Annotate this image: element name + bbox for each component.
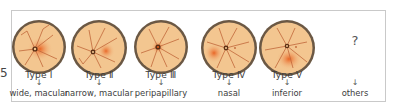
down-arrow-icon: ↓ xyxy=(255,78,319,88)
type-3-item: Type Ⅲ ↓ peripapillary xyxy=(129,11,193,103)
down-arrow-icon: ↓ xyxy=(129,78,193,88)
type-description: peripapillary xyxy=(123,88,199,98)
question-mark-icon: ? xyxy=(323,33,387,48)
others-item: ? ↓ others xyxy=(323,11,387,103)
fundus-type-2-icon xyxy=(70,19,128,77)
down-arrow-icon: ↓ xyxy=(67,78,131,88)
fundus-type-3-icon xyxy=(133,19,189,75)
down-arrow-icon: ↓ xyxy=(7,78,71,88)
fundus-classification-panel: Type Ⅰ ↓ wide, macular Type Ⅱ ↓ narrow, … xyxy=(11,10,386,102)
fundus-type-4-icon xyxy=(200,19,258,77)
fundus-type-1-icon xyxy=(11,19,67,75)
type-5-item: Type Ⅴ ↓ inferior xyxy=(255,11,319,103)
others-description: others xyxy=(317,88,393,98)
down-arrow-icon: ↓ xyxy=(197,78,261,88)
down-arrow-icon: ↓ xyxy=(323,78,387,88)
type-2-item: Type Ⅱ ↓ narrow, macular xyxy=(67,11,131,103)
type-description: inferior xyxy=(249,88,325,98)
fundus-type-5-icon xyxy=(258,19,316,77)
